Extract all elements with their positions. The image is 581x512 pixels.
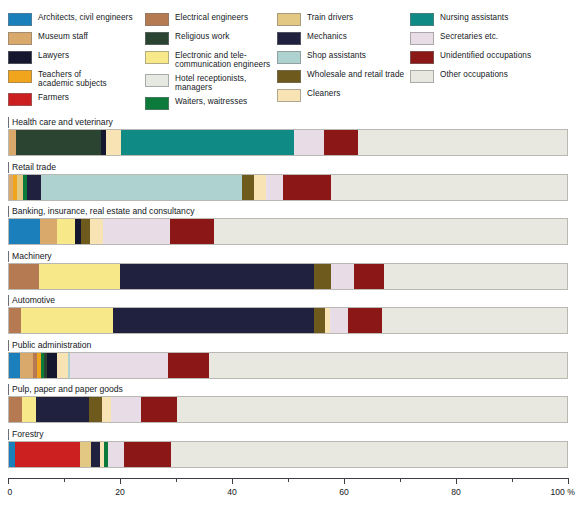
bar-segment[interactable] [124, 442, 171, 467]
axis-minor-tick [288, 478, 289, 482]
legend-item[interactable]: Unidentified occupations [410, 50, 580, 66]
bar-segment[interactable] [324, 130, 358, 155]
bar-category-label: Retail trade [12, 162, 56, 172]
legend-item[interactable]: Hotel receptionists, managers [145, 73, 285, 93]
legend-column-3: Train driversMechanicsShop assistantsWho… [277, 12, 412, 107]
bar-segment[interactable] [111, 397, 141, 422]
bar-segment[interactable] [9, 130, 16, 155]
legend-item[interactable]: Religious work [145, 31, 285, 47]
bar-track [8, 396, 568, 423]
bar-segment[interactable] [331, 264, 353, 289]
bar-segment[interactable] [9, 219, 40, 244]
bar-segment[interactable] [358, 130, 567, 155]
legend-item[interactable]: Waiters, waitresses [145, 96, 285, 112]
bar-segment[interactable] [177, 397, 566, 422]
bar-segment[interactable] [47, 353, 56, 378]
bar-segment[interactable] [254, 175, 265, 200]
axis-tick-label: 20 [115, 487, 125, 497]
bar-track [8, 129, 568, 156]
bar-segment[interactable] [382, 308, 567, 333]
bar-segment[interactable] [314, 264, 331, 289]
bar-segment[interactable] [27, 175, 41, 200]
legend-item[interactable]: Shop assistants [277, 50, 412, 66]
bar-segment[interactable] [170, 219, 215, 244]
bar-segment[interactable] [90, 219, 103, 244]
bar-segment[interactable] [330, 308, 348, 333]
bar-segment[interactable] [80, 442, 91, 467]
bar-origin-tick [8, 117, 9, 128]
bar-segment[interactable] [15, 442, 81, 467]
bar-segment[interactable] [40, 219, 57, 244]
legend-item[interactable]: Architects, civil engineers [8, 12, 148, 28]
bar-track [8, 307, 568, 334]
legend-item[interactable]: Museum staff [8, 31, 148, 47]
bar-segment[interactable] [81, 219, 90, 244]
bar-segment[interactable] [36, 397, 89, 422]
bar-segment[interactable] [214, 219, 567, 244]
bar-segment[interactable] [91, 442, 100, 467]
bar-segment[interactable] [168, 353, 209, 378]
bar-origin-tick [8, 295, 9, 306]
legend-item[interactable]: Secretaries etc. [410, 31, 580, 47]
bar-segment[interactable] [209, 353, 567, 378]
axis-tick-label: 60 [339, 487, 349, 497]
legend-item[interactable]: Mechanics [277, 31, 412, 47]
bar-segment[interactable] [102, 397, 111, 422]
bar-segment[interactable] [21, 308, 113, 333]
legend-item-label: Hotel receptionists, managers [175, 73, 285, 93]
bar-segment[interactable] [89, 397, 101, 422]
bar-segment[interactable] [113, 308, 314, 333]
bar-category-label: Public administration [12, 340, 91, 350]
bar-track [8, 174, 568, 201]
bar-segment[interactable] [57, 353, 68, 378]
legend-item-label: Waiters, waitresses [175, 96, 247, 106]
bar-segment[interactable] [314, 308, 325, 333]
bar-segment[interactable] [9, 353, 20, 378]
bar-segment[interactable] [22, 397, 37, 422]
bar-segment[interactable] [141, 397, 178, 422]
axis-tick [120, 478, 121, 484]
bar-segment[interactable] [121, 130, 294, 155]
bar-segment[interactable] [103, 219, 170, 244]
bar-category-label: Banking, insurance, real estate and cons… [12, 206, 195, 216]
legend-item[interactable]: Other occupations [410, 69, 580, 85]
legend-swatch-icon [8, 93, 32, 106]
bar-segment[interactable] [70, 353, 168, 378]
bar-segment[interactable] [9, 308, 21, 333]
bar-segment[interactable] [9, 264, 39, 289]
bar-category-label: Forestry [12, 429, 44, 439]
legend-item[interactable]: Train drivers [277, 12, 412, 28]
bar-segment[interactable] [354, 264, 384, 289]
bar-segment[interactable] [16, 130, 101, 155]
bar-segment[interactable] [331, 175, 566, 200]
legend-item-label: Unidentified occupations [440, 50, 531, 60]
bar-segment[interactable] [120, 264, 314, 289]
legend-item[interactable]: Electronic and tele-communication engine… [145, 50, 285, 70]
bar-segment[interactable] [41, 175, 242, 200]
bar-segment[interactable] [283, 175, 331, 200]
bar-segment[interactable] [266, 175, 284, 200]
bar-segment[interactable] [242, 175, 254, 200]
bar-segment[interactable] [348, 308, 381, 333]
bar-segment[interactable] [106, 130, 122, 155]
bar-segment[interactable] [108, 442, 125, 467]
legend-swatch-icon [410, 13, 434, 26]
bar-segment[interactable] [384, 264, 567, 289]
legend-item[interactable]: Lawyers [8, 50, 148, 66]
axis-minor-tick [176, 478, 177, 482]
bar-segment[interactable] [294, 130, 324, 155]
bar-segment[interactable] [171, 442, 567, 467]
legend-item[interactable]: Electrical engineers [145, 12, 285, 28]
legend-item[interactable]: Nursing assistants [410, 12, 580, 28]
legend-swatch-icon [277, 70, 301, 83]
axis-tick-label: 80 [451, 487, 461, 497]
legend-item[interactable]: Wholesale and retail trade [277, 69, 412, 85]
legend-item[interactable]: Teachers ofacademic subjects [8, 69, 148, 89]
bar-segment[interactable] [20, 353, 33, 378]
legend-item[interactable]: Farmers [8, 92, 148, 108]
stacked-bar-chart: Health care and veterinaryRetail tradeBa… [0, 116, 581, 512]
bar-segment[interactable] [57, 219, 75, 244]
bar-segment[interactable] [39, 264, 120, 289]
legend-item[interactable]: Cleaners [277, 88, 412, 104]
bar-segment[interactable] [9, 397, 22, 422]
